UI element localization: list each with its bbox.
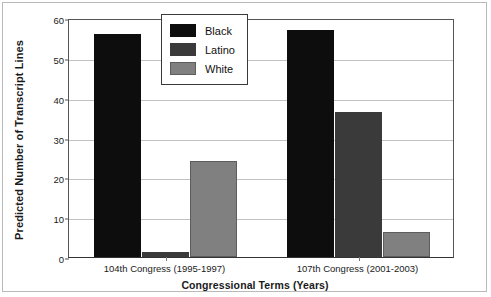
legend-label-latino: Latino [205,44,235,56]
x-category-label: 104th Congress (1995-1997) [104,263,225,274]
y-tick-label: 20 [53,174,64,185]
legend-swatch-white-icon [170,62,196,75]
legend-swatch-latino-icon [170,43,196,56]
y-tick-label: 30 [53,134,64,145]
x-axis-title: Congressional Terms (Years) [60,279,450,291]
y-tick-label: 60 [53,15,64,26]
y-tick-mark [65,259,69,260]
legend-item-latino: Latino [170,40,235,59]
bar-white-group-2 [383,232,430,257]
bar-white-group-1 [190,161,237,257]
legend-item-white: White [170,59,235,78]
y-tick-label: 50 [53,54,64,65]
legend-label-black: Black [205,25,232,37]
chart-legend: Black Latino White [161,14,248,85]
y-axis-title: Predicted Number of Transcript Lines [13,15,29,265]
bar-black-group-2 [287,30,334,257]
legend-label-white: White [205,63,233,75]
x-category-label: 107th Congress (2001-2003) [297,263,418,274]
x-tick-mark [359,257,360,261]
plot-area: 0102030405060 [68,19,454,258]
legend-item-black: Black [170,21,235,40]
bar-latino-group-2 [335,112,382,257]
bar-black-group-1 [94,34,141,257]
chart-figure: Predicted Number of Transcript Lines Con… [0,0,491,297]
y-tick-label: 0 [59,254,64,265]
y-tick-label: 40 [53,94,64,105]
bar-series-container [69,20,453,257]
x-tick-mark [166,257,167,261]
legend-swatch-black-icon [170,24,196,37]
y-tick-label: 10 [53,214,64,225]
